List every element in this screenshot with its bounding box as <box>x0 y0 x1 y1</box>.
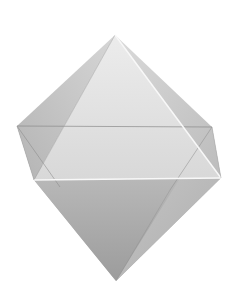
octahedron-figure <box>0 0 233 294</box>
octahedron-drawing <box>0 0 233 294</box>
